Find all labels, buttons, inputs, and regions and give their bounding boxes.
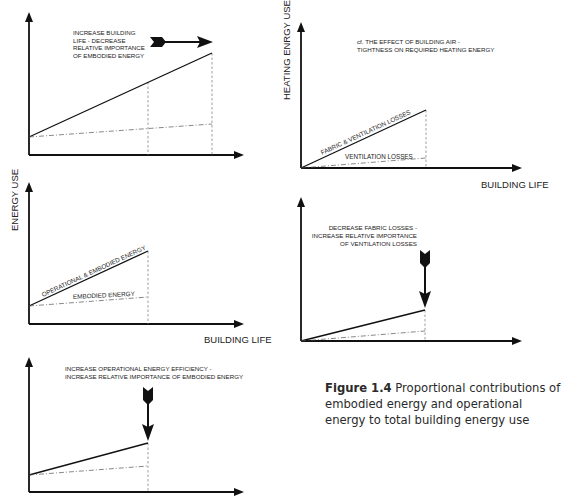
- panel-middle-left: ENERGY USE BUILDING LIFE OPERATIONAL & E…: [9, 169, 272, 345]
- arrow-down-icon: [419, 250, 431, 308]
- x-axis-arrowhead-icon: [512, 337, 522, 345]
- y-axis-label: HEATING ENRGY USE: [281, 0, 292, 100]
- arrow-right-icon: [150, 36, 213, 48]
- dashed-line-label: VENTILATION LOSSES: [345, 153, 413, 160]
- y-axis-arrowhead-icon: [297, 197, 305, 207]
- annotation: DECREASE FABRIC LOSSES -: [329, 224, 417, 231]
- total-energy-line: [29, 53, 212, 137]
- x-axis-arrowhead-icon: [512, 164, 522, 172]
- solid-line-label: FABRIC & VENTILATION LOSSES: [319, 108, 411, 156]
- y-axis-arrowhead-icon: [297, 22, 305, 32]
- y-axis-arrowhead-icon: [25, 357, 33, 367]
- annotation: INCREASE RELATIVE IMPORTANCE OF EMBODIED…: [65, 373, 243, 380]
- annotation: TIGHTNESS ON REQUIRED HEATING ENERGY: [357, 46, 494, 53]
- panel-top-right: HEATING ENRGY USE BUILDING LIFE cf. THE …: [281, 0, 549, 190]
- y-axis-arrowhead-icon: [25, 12, 33, 22]
- x-axis-arrowhead-icon: [234, 320, 244, 328]
- panel-top-left: INCREASE BUILDING LIFE - DECREASE RELATI…: [25, 12, 244, 159]
- annotation: OF VENTILATION LOSSES: [340, 240, 417, 247]
- figure-caption: Figure 1.4 Proportional contributions of…: [325, 380, 561, 428]
- embodied-energy-line: [29, 124, 212, 137]
- annotation: INCREASE OPERATIONAL ENERGY EFFICIENCY -: [65, 365, 212, 372]
- panel-bottom-left: INCREASE OPERATIONAL ENERGY EFFICIENCY -…: [25, 357, 244, 496]
- x-axis-arrowhead-icon: [234, 151, 244, 159]
- annotation: INCREASE RELATIVE IMPORTANCE: [312, 232, 417, 239]
- annotation: OF EMBODIED ENERGY: [73, 52, 144, 59]
- panel-middle-right: DECREASE FABRIC LOSSES - INCREASE RELATI…: [297, 197, 522, 345]
- figure-diagram: INCREASE BUILDING LIFE - DECREASE RELATI…: [0, 0, 564, 504]
- y-axis-label: ENERGY USE: [9, 169, 20, 231]
- x-axis-label: BUILDING LIFE: [204, 334, 272, 345]
- x-axis-label: BUILDING LIFE: [481, 179, 549, 190]
- arrow-down-icon: [142, 387, 154, 441]
- annotation: INCREASE BUILDING: [73, 29, 136, 36]
- annotation: LIFE - DECREASE: [73, 37, 126, 44]
- total-energy-line: [29, 443, 148, 475]
- annotation: cf. THE EFFECT OF BUILDING AIR -: [357, 38, 460, 45]
- x-axis-arrowhead-icon: [234, 488, 244, 496]
- figure-label: Figure 1.4: [325, 381, 392, 395]
- y-axis-arrowhead-icon: [25, 182, 33, 192]
- annotation: RELATIVE IMPORTANCE: [73, 44, 145, 51]
